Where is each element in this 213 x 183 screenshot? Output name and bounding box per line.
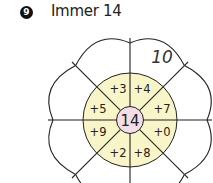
petal-right-upper[interactable] (184, 66, 211, 120)
petal-top-left[interactable] (76, 39, 130, 66)
petal-left-upper[interactable] (49, 66, 76, 120)
petal-right-lower[interactable] (184, 120, 211, 174)
petal-answer-top-right: 10 (151, 47, 173, 67)
segment-label: +0 (154, 125, 171, 139)
center-value: 14 (120, 112, 139, 130)
segment-label: +9 (90, 125, 107, 139)
segment-label: +5 (90, 102, 107, 116)
segment-label: +4 (134, 82, 151, 96)
petal-left-lower[interactable] (49, 120, 76, 174)
segment-label: +8 (134, 146, 151, 160)
segment-label: +2 (110, 146, 127, 160)
segment-label: +3 (110, 82, 127, 96)
petal-bottom-right[interactable] (130, 174, 184, 183)
segment-label: +7 (154, 102, 171, 116)
flower-diagram: 14 +3 +4 +7 +0 +8 +2 +9 +5 10 (0, 0, 213, 183)
petal-bottom-left[interactable] (76, 174, 130, 183)
